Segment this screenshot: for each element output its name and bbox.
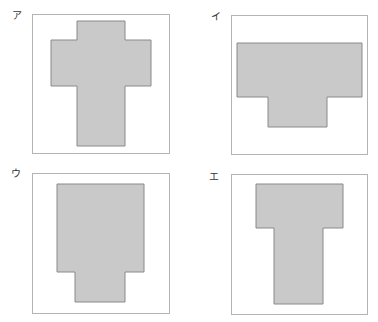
panel-i-t-shape [237, 43, 362, 127]
panel-a-cross-shape [51, 21, 151, 146]
shapes-layer [0, 0, 378, 322]
panel-u-stepped-shape [57, 184, 144, 302]
panel-e-t-shape [256, 184, 343, 304]
